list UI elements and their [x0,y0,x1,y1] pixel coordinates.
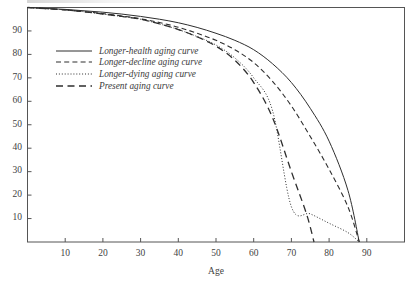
x-tick-label: 40 [166,248,190,258]
series-line-3 [28,8,315,243]
series-line-0 [28,8,360,243]
legend-line-sample-longdash [56,81,92,91]
x-tick-label: 70 [279,248,303,258]
legend-item: Longer-decline aging curve [56,57,231,69]
x-tick-label: 60 [242,248,266,258]
legend-item: Longer-dying aging curve [56,68,231,80]
y-tick-label: 70 [2,72,22,82]
x-axis-title: Age [176,266,256,276]
legend-line-sample-solid [56,46,92,56]
series-line-1 [28,8,360,243]
x-axis-ticks [65,238,367,242]
data-series-group [28,8,360,243]
legend-item-label: Longer-decline aging curve [99,57,202,67]
y-tick-label: 60 [2,95,22,105]
y-tick-label: 20 [2,189,22,199]
legend-item-label: Longer-dying aging curve [99,69,196,79]
chart-legend: Longer-health aging curveLonger-decline … [56,45,231,91]
legend-line-sample-dashed [56,57,92,67]
x-tick-label: 90 [355,248,379,258]
y-tick-label: 90 [2,25,22,35]
x-tick-label: 50 [204,248,228,258]
x-tick-label: 30 [129,248,153,258]
x-tick-label: 10 [53,248,77,258]
plot-canvas [0,0,419,281]
legend-item-label: Present aging curve [99,81,174,91]
y-tick-label: 40 [2,142,22,152]
y-axis-ticks [28,31,32,219]
aging-curves-figure: 102030405060708090 102030405060708090 Ag… [0,0,419,281]
legend-item-label: Longer-health aging curve [99,46,198,56]
y-tick-label: 50 [2,119,22,129]
x-tick-label: 80 [317,248,341,258]
y-tick-label: 10 [2,212,22,222]
legend-item: Longer-health aging curve [56,45,231,57]
legend-line-sample-dotted [56,69,92,79]
y-tick-label: 80 [2,48,22,58]
x-tick-label: 20 [91,248,115,258]
axis-frame [28,8,405,243]
legend-item: Present aging curve [56,80,231,92]
y-tick-label: 30 [2,165,22,175]
series-line-2 [28,8,360,243]
